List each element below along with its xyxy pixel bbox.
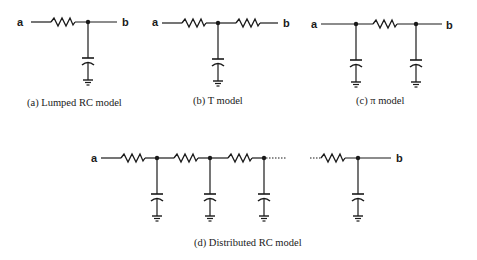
terminal-b-label: b	[122, 16, 129, 28]
caption-lumped-rc: (a) Lumped RC model	[27, 97, 122, 109]
caption-t-model: (b) T model	[193, 95, 243, 107]
terminal-b-label: b	[283, 17, 290, 29]
panel-t-model: a b (b) T model	[152, 16, 290, 107]
terminal-b-label: b	[446, 19, 453, 31]
capacitor-ground-icon	[410, 24, 422, 87]
caption-distributed-rc: (d) Distributed RC model	[194, 237, 302, 249]
panel-pi-model: a b (c) π model	[311, 18, 453, 107]
caption-pi-model: (c) π model	[356, 95, 405, 107]
panel-lumped-rc: a b (a) Lumped RC model	[17, 16, 129, 109]
resistor-icon	[321, 154, 345, 162]
capacitor-ground-icon	[151, 158, 163, 221]
terminal-a-label: a	[91, 152, 98, 164]
terminal-a-label: a	[17, 16, 24, 28]
capacitor-ground-icon	[352, 158, 364, 221]
terminal-a-label: a	[311, 18, 318, 30]
resistor-icon	[121, 154, 145, 162]
capacitor-ground-icon	[204, 158, 216, 221]
resistor-icon	[51, 18, 75, 26]
terminal-b-label: b	[396, 152, 403, 164]
capacitor-ground-icon	[212, 23, 224, 86]
capacitor-ground-icon	[350, 24, 362, 87]
resistor-icon	[236, 19, 260, 27]
resistor-icon	[228, 154, 252, 162]
resistor-icon	[182, 19, 206, 27]
resistor-icon	[373, 20, 397, 28]
terminal-a-label: a	[152, 16, 159, 28]
panel-distributed-rc: a b (d) Distributed RC model	[91, 152, 403, 249]
capacitor-ground-icon	[82, 22, 94, 85]
resistor-icon	[174, 154, 198, 162]
capacitor-ground-icon	[258, 158, 270, 221]
